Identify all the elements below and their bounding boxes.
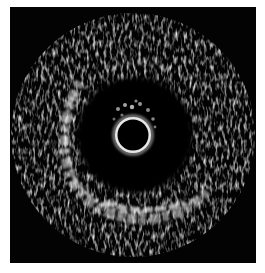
ultrasound-scan — [10, 7, 256, 263]
catheter-lumen — [118, 120, 149, 151]
ultrasound-image — [10, 7, 256, 263]
